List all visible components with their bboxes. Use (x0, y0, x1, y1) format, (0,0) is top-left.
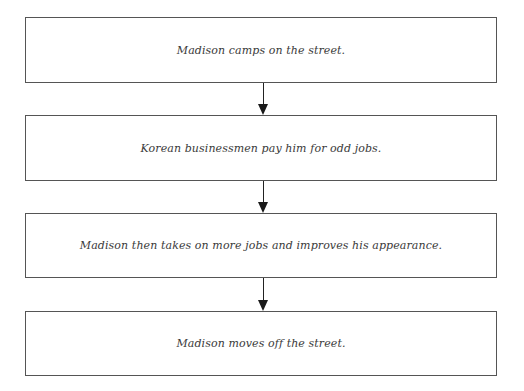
connector-line (263, 83, 265, 105)
step-box-1: Madison camps on the street. (25, 17, 497, 83)
arrow-down-icon (258, 300, 268, 311)
connector-line (263, 278, 265, 300)
step-label: Madison then takes on more jobs and impr… (80, 239, 442, 252)
arrow-down-icon (258, 104, 268, 115)
step-box-3: Madison then takes on more jobs and impr… (25, 213, 497, 278)
step-label: Madison moves off the street. (176, 337, 345, 350)
step-box-4: Madison moves off the street. (25, 311, 497, 376)
connector-line (263, 181, 265, 202)
step-box-2: Korean businessmen pay him for odd jobs. (25, 115, 497, 181)
step-label: Madison camps on the street. (177, 44, 345, 57)
step-label: Korean businessmen pay him for odd jobs. (141, 142, 382, 155)
arrow-down-icon (258, 202, 268, 213)
